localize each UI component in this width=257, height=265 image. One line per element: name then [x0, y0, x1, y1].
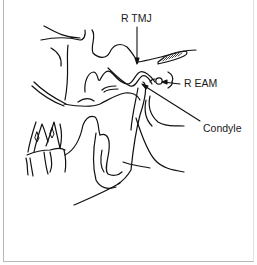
- mandible-body: [65, 116, 122, 205]
- label-condyle: Condyle: [203, 123, 242, 134]
- teeth: [26, 122, 66, 176]
- mandible-ramus: [118, 82, 184, 184]
- condyle-leader-line: [143, 85, 200, 121]
- petrous-ridge: [158, 51, 187, 64]
- skull-outline: [32, 26, 196, 106]
- condyle-arrowhead-icon: [142, 84, 148, 89]
- tmj-arrowhead-icon: [135, 58, 139, 64]
- label-r-eam: R EAM: [184, 78, 217, 89]
- label-r-tmj: R TMJ: [121, 13, 152, 24]
